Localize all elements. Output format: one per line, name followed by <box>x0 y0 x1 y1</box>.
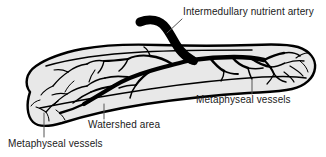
diagram-canvas <box>0 0 326 157</box>
label-metaphyseal-vessels-right: Metaphyseal vessels <box>196 94 291 105</box>
bone-vascular-diagram: Intermedullary nutrient artery Metaphyse… <box>0 0 326 157</box>
label-metaphyseal-vessels-left: Metaphyseal vessels <box>8 138 103 149</box>
label-watershed-area: Watershed area <box>88 119 160 130</box>
label-intramedullary-nutrient-artery: Intermedullary nutrient artery <box>183 6 314 17</box>
distal-branch-b2 <box>248 68 263 69</box>
